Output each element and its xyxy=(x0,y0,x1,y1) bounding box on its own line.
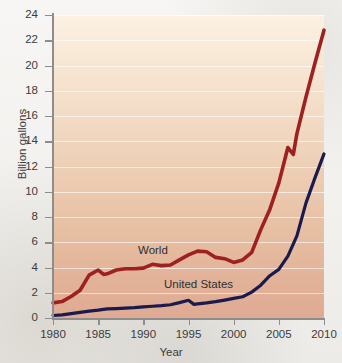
y-axis-tick xyxy=(45,15,52,16)
x-axis-tick xyxy=(324,319,325,325)
x-axis-tick xyxy=(234,319,235,325)
x-axis-tick-label: 1995 xyxy=(167,329,211,341)
y-axis-tick-label: 4 xyxy=(12,262,38,274)
y-axis-tick xyxy=(45,91,52,92)
x-axis-tick xyxy=(53,319,54,325)
x-axis-tick xyxy=(98,319,99,325)
x-axis-tick xyxy=(279,319,280,325)
y-axis-tick xyxy=(45,192,52,193)
y-axis-tick-label: 22 xyxy=(12,34,38,46)
series-label-united-states: United States xyxy=(164,278,233,290)
x-axis-tick-label: 1980 xyxy=(31,329,75,341)
y-axis-tick-label: 6 xyxy=(12,236,38,248)
series-layer xyxy=(53,15,324,318)
x-axis-tick-label: 1990 xyxy=(121,329,165,341)
x-axis-tick xyxy=(143,319,144,325)
y-axis-tick xyxy=(45,66,52,67)
series-label-world: World xyxy=(138,244,168,256)
y-axis-tick xyxy=(45,318,52,319)
y-axis-tick xyxy=(45,116,52,117)
y-axis-title: Billion gallons xyxy=(16,84,28,204)
x-axis-tick-label: 2005 xyxy=(257,329,301,341)
x-axis-tick xyxy=(189,319,190,325)
y-axis-tick-label: 24 xyxy=(12,9,38,21)
y-axis-tick xyxy=(45,242,52,243)
y-axis-tick xyxy=(45,167,52,168)
y-axis-tick xyxy=(45,268,52,269)
y-axis-tick-label: 0 xyxy=(12,312,38,324)
x-axis-title: Year xyxy=(0,346,342,358)
x-axis-tick-label: 2010 xyxy=(302,329,342,341)
x-axis-tick-label: 1985 xyxy=(76,329,120,341)
y-axis-tick-label: 2 xyxy=(12,287,38,299)
x-axis-tick-label: 2000 xyxy=(212,329,256,341)
y-axis-tick xyxy=(45,141,52,142)
y-axis-tick-label: 20 xyxy=(12,60,38,72)
y-axis-tick-label: 8 xyxy=(12,211,38,223)
series-line-united-states xyxy=(53,154,324,316)
line-chart-figure: 242220181614121086420 198019851990199520… xyxy=(0,0,342,363)
y-axis-line xyxy=(52,13,54,320)
y-axis-tick xyxy=(45,293,52,294)
y-axis-tick xyxy=(45,217,52,218)
plot-area xyxy=(53,15,324,318)
y-axis-tick xyxy=(45,40,52,41)
